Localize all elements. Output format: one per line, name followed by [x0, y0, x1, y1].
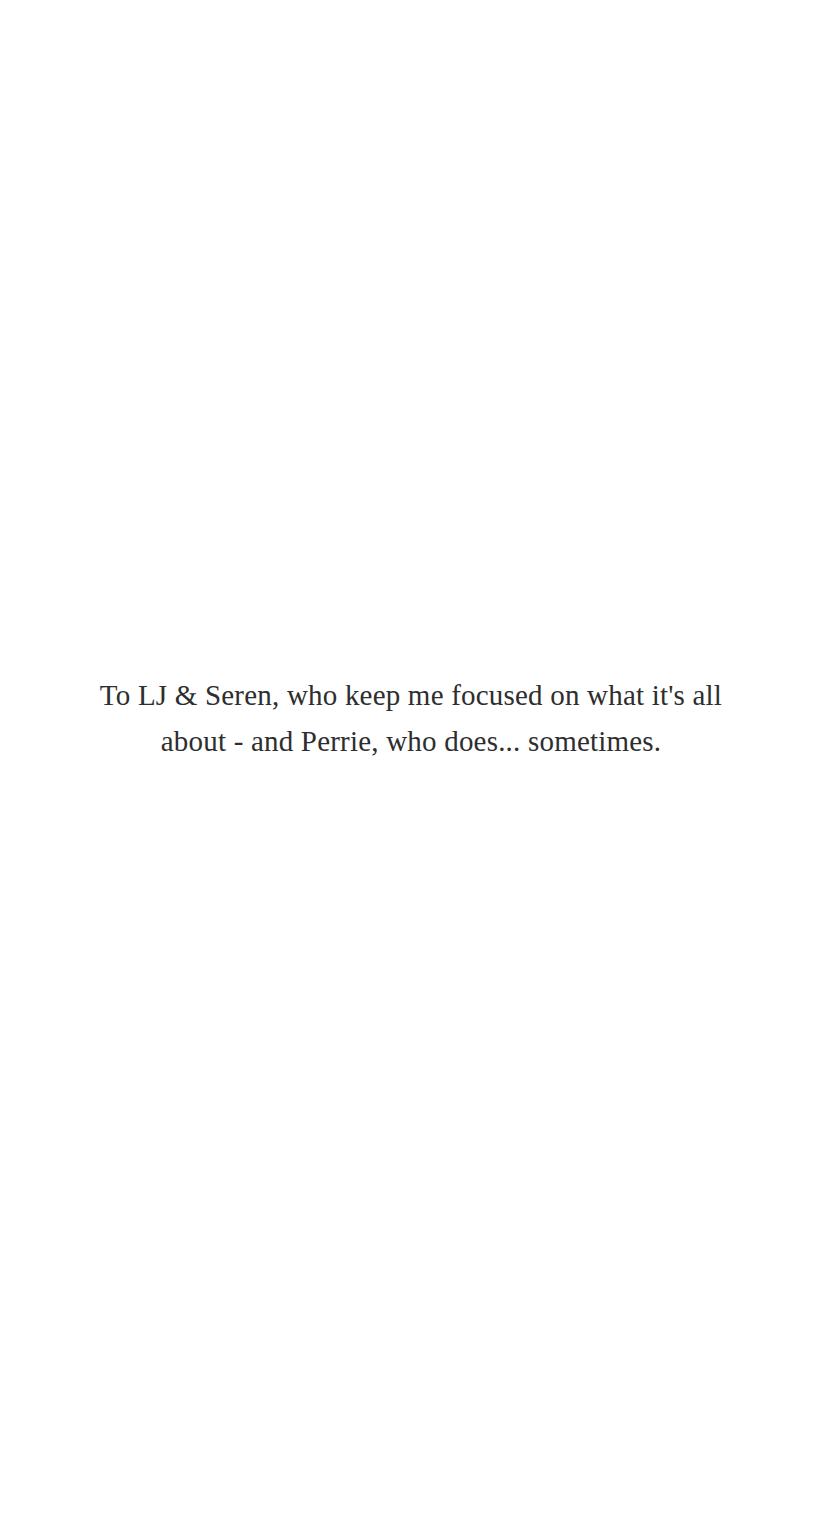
- dedication-line-2: about - and Perrie, who does... sometime…: [0, 718, 822, 764]
- book-dedication-page: To LJ & Seren, who keep me focused on wh…: [0, 0, 822, 1535]
- dedication-text: To LJ & Seren, who keep me focused on wh…: [0, 672, 822, 764]
- dedication-line-1: To LJ & Seren, who keep me focused on wh…: [0, 672, 822, 718]
